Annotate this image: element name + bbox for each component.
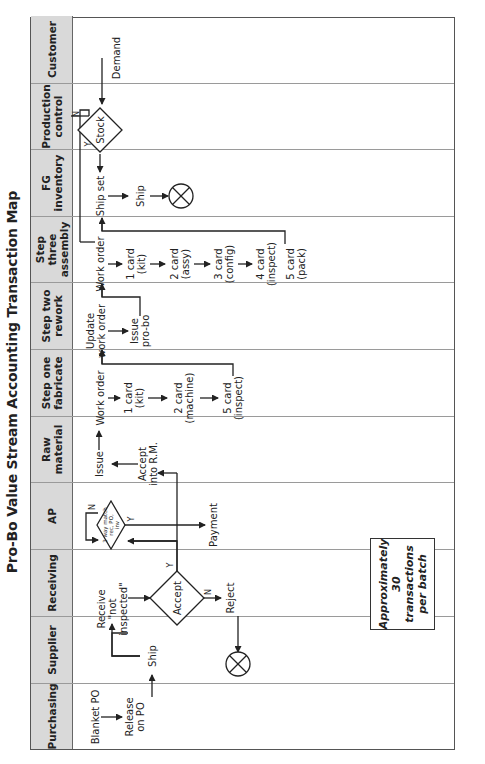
three-way-line3: inv	[114, 521, 120, 529]
fab-card1-line2: (kit)	[134, 388, 145, 408]
node-release-on-po: Releaseon PO	[124, 697, 146, 736]
node-ship-supplier: Ship	[147, 645, 158, 667]
fab-card5-line2: (inspect)	[233, 376, 244, 420]
accept-rm-line1: Accept	[137, 447, 148, 481]
receive-line3: inspected"	[118, 582, 129, 635]
node-issue: Issue	[94, 451, 105, 477]
asm-card2-line2: (assy)	[180, 249, 191, 279]
node-fab-card5: 5 card(inspect)	[222, 376, 244, 420]
asm-card3-line2: (config)	[224, 245, 235, 283]
node-reject: Reject	[225, 582, 236, 613]
accept-yes-label: Y	[165, 563, 176, 568]
node-fab-card1: 1 card(kit)	[123, 382, 145, 413]
fab-card2-line1: 2 card	[173, 382, 184, 413]
node-demand: Demand	[111, 37, 122, 79]
node-blanket-po: Blanket PO	[90, 690, 101, 745]
fab-card1-line1: 1 card	[123, 382, 134, 413]
accept-decision-label: Accept	[172, 581, 183, 615]
three-way-match-label: 3 way matchrec, PO,inv	[102, 507, 120, 543]
note-line3: per batch	[416, 554, 429, 614]
receive-line1: Receive	[96, 589, 107, 628]
node-asm-card5: 5 card(pack)	[285, 248, 307, 280]
accept-no-label: N	[203, 589, 214, 595]
node-ship-set: Ship set	[95, 176, 106, 216]
release-line2: on PO	[135, 702, 146, 732]
node-payment: Payment	[208, 503, 219, 547]
three-way-no-label: N	[87, 504, 98, 510]
node-asm-card1: 1 card(kit)	[125, 248, 147, 279]
note-text: Approximately30 transactionsper batch	[377, 539, 429, 630]
stock-no-label: N	[71, 111, 82, 117]
asm-card1-line2: (kit)	[136, 254, 147, 274]
receive-line2: "not	[107, 599, 118, 620]
node-asm-card4: 4 card(inspect)	[255, 242, 277, 286]
node-fab-work-order: Work order	[95, 370, 106, 425]
issue-pro-bo-line2: pro-bo	[140, 315, 151, 348]
update-line1: Update	[85, 313, 96, 349]
asm-card3-line1: 3 card	[213, 248, 224, 279]
asm-card1-line1: 1 card	[125, 248, 136, 279]
note-line1: Approximately	[377, 539, 390, 630]
node-asm-work-order: Work order	[95, 236, 106, 291]
accept-rm-line2: into R.M.	[148, 442, 159, 486]
node-asm-card3: 3 card(config)	[213, 245, 235, 283]
transactions-note: Approximately30 transactionsper batch	[370, 538, 435, 630]
node-ship-fg: Ship	[135, 185, 146, 207]
fab-card2-line2: (machine)	[184, 373, 195, 424]
three-way-yes-label: Y	[126, 517, 137, 522]
issue-pro-bo-line1: Issue	[129, 318, 140, 344]
asm-card5-line2: (pack)	[296, 248, 307, 280]
node-update-work-order: Updatework order	[85, 304, 107, 358]
update-line2: work order	[96, 304, 107, 358]
asm-card4-line1: 4 card	[255, 248, 266, 279]
node-issue-pro-bo: Issuepro-bo	[129, 315, 151, 348]
asm-card4-line2: (inspect)	[266, 242, 277, 286]
node-fab-card2: 2 card(machine)	[173, 373, 195, 424]
node-asm-card2: 2 card(assy)	[169, 248, 191, 279]
stock-yes-label: Y	[83, 142, 94, 147]
release-line1: Release	[124, 697, 135, 736]
node-accept-into-rm: Acceptinto R.M.	[137, 442, 159, 486]
asm-card5-line1: 5 card	[285, 248, 296, 279]
stock-decision-label: Stock	[95, 116, 106, 144]
asm-card2-line1: 2 card	[169, 248, 180, 279]
diagram-canvas: Pro-Bo Value Stream Accounting Transacti…	[0, 0, 485, 764]
note-line2: 30 transactions	[390, 545, 416, 622]
fab-card5-line1: 5 card	[222, 382, 233, 413]
node-receive-not-inspected: Receive"notinspected"	[96, 582, 129, 635]
